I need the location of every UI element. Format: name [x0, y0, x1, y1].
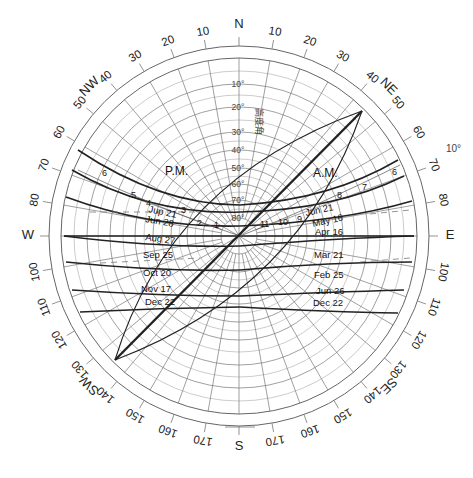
azimuth-label: 60: [411, 123, 428, 140]
hour-label: 6: [102, 168, 107, 178]
altitude-label: 40°: [232, 145, 245, 155]
azimuth-tick: [171, 415, 174, 423]
date-labels-right: Jun 21 May 16 Apr 16 Mar 21 Feb 25 Jun 2…: [304, 201, 344, 308]
azimuth-tick: [272, 423, 274, 432]
azimuth-tick: [140, 401, 145, 409]
azimuth-label: 160: [157, 423, 179, 441]
azimuth-tick: [111, 84, 117, 91]
azimuth-tick: [361, 382, 367, 389]
azimuth-tick: [171, 49, 174, 57]
date-labels-left: Jup 21 Jun 28 Aug 27 Sep 25 Oct 20 Nov 1…: [141, 203, 178, 307]
hour-label: 2: [197, 218, 202, 228]
azimuth-label: 30: [334, 47, 351, 64]
azimuth-tick: [272, 40, 274, 49]
azimuth-tick: [43, 201, 52, 203]
hour-label: 3: [181, 205, 186, 215]
hour-label: 9: [297, 214, 302, 224]
azimuth-label: 170: [192, 433, 213, 448]
azimuth-label: 150: [124, 406, 147, 426]
azimuth-tick: [111, 382, 117, 389]
altitude-label: 20°: [232, 102, 245, 112]
azimuth-tick: [404, 331, 412, 336]
azimuth-label: 80: [27, 193, 41, 208]
hour-label: 11: [260, 219, 269, 229]
altitude-label: 60°: [232, 179, 245, 189]
side-note: 10°: [446, 143, 461, 154]
azimuth-label: 100: [27, 262, 42, 283]
azimuth-label: 20: [160, 33, 176, 49]
azimuth-label: 70: [427, 157, 443, 173]
date-label: Oct 20: [143, 267, 171, 278]
hour-label: 5: [131, 190, 136, 200]
azimuth-tick: [204, 423, 206, 432]
date-label: Nov 17: [141, 283, 171, 294]
cardinal-label-s: S: [235, 438, 244, 453]
date-label: Mar 21: [314, 249, 344, 260]
azimuth-label: 120: [49, 329, 69, 352]
azimuth-label: 120: [409, 329, 429, 352]
azimuth-label: 110: [426, 296, 444, 317]
azimuth-tick: [52, 168, 60, 171]
azimuth-label: 80: [437, 193, 451, 208]
date-label: Dec 22: [145, 296, 175, 307]
azimuth-tick: [43, 269, 52, 271]
hour-label: 8: [337, 190, 342, 200]
azimuth-label: 20: [302, 33, 318, 49]
azimuth-tick: [204, 40, 206, 49]
azimuth-tick: [404, 137, 412, 142]
azimuth-tick: [418, 168, 426, 171]
azimuth-label: 60: [50, 123, 67, 140]
azimuth-tick: [67, 137, 75, 142]
hour-label: 4: [146, 198, 151, 208]
date-label: Jun 26: [316, 285, 345, 296]
azimuth-tick: [140, 64, 145, 72]
hour-label: 7: [362, 182, 367, 192]
azimuth-tick: [426, 269, 435, 271]
azimuth-label: 110: [35, 296, 53, 317]
am-label: A.M.: [313, 166, 338, 180]
altitude-label: 70°: [232, 195, 245, 205]
azimuth-tick: [385, 358, 392, 364]
azimuth-tick: [87, 358, 94, 364]
azimuth-label: 70: [36, 157, 52, 173]
hour-label: 10: [278, 217, 288, 227]
azimuth-label: 170: [265, 433, 286, 448]
date-label: Dec 22: [313, 297, 343, 308]
azimuth-tick: [87, 108, 94, 114]
cardinal-label-e: E: [446, 227, 455, 242]
altitude-label: 30°: [232, 127, 245, 137]
altitude-label: 10°: [232, 79, 245, 89]
azimuth-tick: [385, 108, 392, 114]
azimuth-label: 150: [332, 406, 355, 426]
altitude-label: 50°: [232, 163, 245, 173]
date-label: Apr 16: [315, 226, 343, 237]
azimuth-label: 160: [299, 423, 321, 441]
hour-label: 6: [392, 167, 397, 177]
azimuth-tick: [361, 84, 367, 91]
azimuth-tick: [426, 201, 435, 203]
azimuth-label: 10: [196, 24, 211, 38]
altitude-axis-title: 高度角: [254, 108, 265, 135]
azimuth-tick: [304, 49, 307, 57]
azimuth-label: 30: [126, 47, 143, 64]
hour-label: 1: [214, 220, 219, 230]
altitude-label: 80°: [232, 213, 245, 223]
azimuth-tick: [334, 401, 339, 409]
sun-path-diagram: 1020304050607080100110120130140150160170…: [0, 0, 473, 478]
azimuth-label: 50: [390, 94, 407, 112]
azimuth-tick: [418, 301, 426, 304]
altitude-labels: 10°20°30°40°50°60°70°80°: [232, 79, 245, 223]
date-label: Sep 25: [143, 249, 173, 260]
azimuth-tick: [52, 301, 60, 304]
cardinal-label-w: W: [22, 227, 35, 242]
azimuth-tick: [304, 415, 307, 423]
date-label: Feb 25: [314, 269, 344, 280]
azimuth-tick: [334, 64, 339, 72]
cardinal-label-n: N: [234, 16, 243, 31]
azimuth-label: 10: [268, 24, 283, 38]
pm-label: P.M.: [165, 164, 188, 178]
azimuth-tick: [67, 331, 75, 336]
azimuth-label: 100: [436, 262, 451, 283]
